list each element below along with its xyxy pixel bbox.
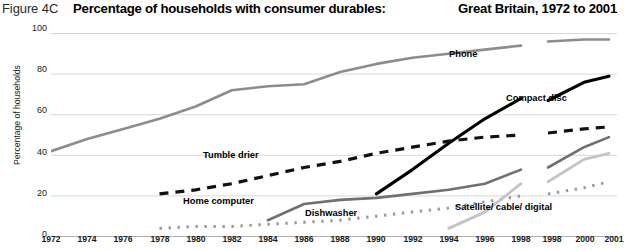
series-line-tumble-drier: [160, 135, 522, 194]
x-tick-1998-left: 1998: [511, 234, 530, 244]
y-tick-100: 100: [19, 23, 47, 33]
x-tick-1998-right: 1998: [542, 234, 561, 244]
x-tick-1986: 1986: [294, 234, 313, 244]
series-label-satellite: Satellite/ cable/ digital: [455, 202, 552, 212]
x-tick-1990: 1990: [366, 234, 385, 244]
x-tick-1972: 1972: [41, 234, 60, 244]
series-line-phone: [51, 46, 521, 152]
chart-title-row: Figure 4C Percentage of households with …: [0, 0, 619, 19]
x-tick-1984: 1984: [258, 234, 277, 244]
series-line-dishwasher-right: [548, 182, 609, 194]
x-tick-1996: 1996: [475, 234, 494, 244]
series-line-compact-disc: [376, 99, 521, 194]
series-label-compact-disc: Compact disc: [506, 93, 567, 103]
y-tick-80: 80: [19, 64, 47, 74]
x-tick-1974: 1974: [77, 234, 96, 244]
plot-area: Phone Compact disc Tumble drier Home com…: [51, 29, 617, 237]
y-tick-60: 60: [19, 105, 47, 115]
x-tick-2001: 2001: [604, 234, 623, 244]
x-tick-1988: 1988: [330, 234, 349, 244]
series-line-satellite-right: [548, 153, 609, 181]
x-tick-1994: 1994: [439, 234, 458, 244]
x-tick-1978: 1978: [150, 234, 169, 244]
series-label-phone: Phone: [449, 49, 477, 59]
series-line-phone-right: [548, 40, 609, 42]
series-label-dishwasher: Dishwasher: [305, 208, 357, 218]
series-label-home-computer: Home computer: [183, 196, 254, 206]
figure-number: Figure 4C: [2, 1, 58, 16]
x-tick-1976: 1976: [113, 234, 132, 244]
x-tick-1992: 1992: [403, 234, 422, 244]
series-label-tumble-drier: Tumble drier: [203, 150, 259, 160]
x-tick-1982: 1982: [222, 234, 241, 244]
y-axis-ticks: 100 80 60 40 20 0: [13, 29, 47, 237]
title-region-period: Great Britain, 1972 to 2001: [458, 1, 617, 16]
x-axis-ticks: 1972 1974 1976 1978 1980 1982 1984 1986 …: [51, 234, 617, 251]
x-tick-2000: 2000: [575, 234, 594, 244]
y-tick-20: 20: [19, 188, 47, 198]
page-title: Percentage of households with consumer d…: [73, 1, 386, 16]
x-tick-1980: 1980: [186, 234, 205, 244]
series-line-tumble-drier-right: [548, 127, 609, 133]
y-tick-40: 40: [19, 147, 47, 157]
